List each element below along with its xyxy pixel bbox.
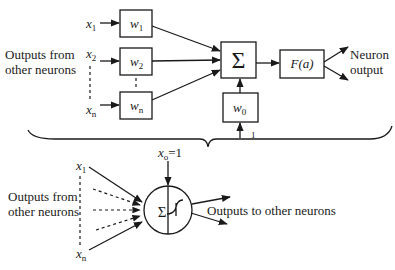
bottom-output-label: Outputs to other neurons <box>207 203 336 218</box>
bottom-input-x1: x1 <box>75 158 86 175</box>
arrow-w1-to-sum <box>152 26 220 51</box>
arrow-w2-to-sum <box>152 60 220 61</box>
bottom-inputs-label-line2: other neurons <box>8 204 79 219</box>
output-label-line1: Neuron <box>350 47 389 62</box>
bottom-arrow-x1 <box>89 167 142 202</box>
bottom-neuron-diagram: Outputs from other neurons x1 xn xo=1 Σ … <box>8 145 336 263</box>
output-arrow-down <box>324 66 348 80</box>
output-label-line2: output <box>350 62 384 77</box>
top-inputs-label-line2: other neurons <box>5 62 76 77</box>
bottom-input-xn: xn <box>75 246 87 263</box>
top-inputs-label-line1: Outputs from <box>5 47 75 62</box>
arrow-wn-to-sum <box>152 70 220 100</box>
bottom-dashed-input-1 <box>93 189 140 205</box>
top-neuron-diagram: Outputs from other neurons x1 x2 xn w1 w… <box>5 10 389 140</box>
input-x2: x2 <box>85 46 96 63</box>
bottom-arrow-xn <box>89 222 142 250</box>
summation-symbol: Σ <box>232 47 246 73</box>
bottom-inputs-label-line1: Outputs from <box>8 189 78 204</box>
bottom-dashed-input-3 <box>96 216 140 230</box>
output-arrow-up <box>324 47 348 62</box>
bottom-bias-label: xo=1 <box>157 145 182 162</box>
activation-label: F(a) <box>289 56 313 71</box>
input-x1: x1 <box>85 16 96 33</box>
neuron-model-diagram: Outputs from other neurons x1 x2 xn w1 w… <box>0 0 395 270</box>
input-xn: xn <box>85 102 97 119</box>
grouping-brace <box>28 126 392 147</box>
bottom-summation-symbol: Σ <box>158 204 167 220</box>
